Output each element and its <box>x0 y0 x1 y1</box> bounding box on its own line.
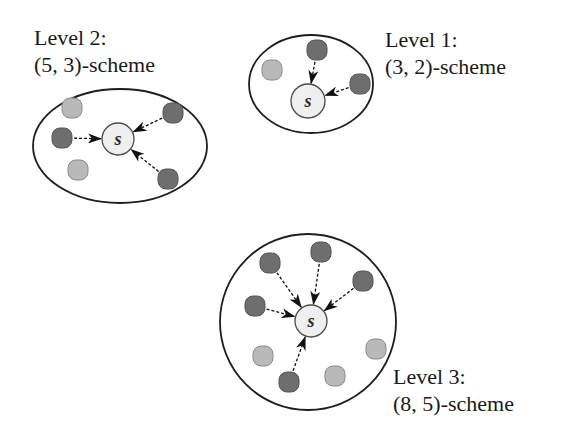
idle-participant-node <box>325 366 345 386</box>
idle-participant-node <box>62 98 82 118</box>
secret-label: s <box>113 129 121 149</box>
active-participant-node <box>353 271 373 291</box>
level-title: Level 1: <box>385 27 458 52</box>
secret-label: s <box>306 311 314 331</box>
active-participant-node <box>311 242 331 262</box>
group-level-1: sLevel 1:(3, 2)-scheme <box>249 27 506 133</box>
active-participant-node <box>260 253 280 273</box>
active-participant-node <box>245 296 265 316</box>
scheme-label: (8, 5)-scheme <box>393 391 514 416</box>
active-participant-node <box>279 372 299 392</box>
active-participant-node <box>350 74 370 94</box>
share-arrow <box>133 118 162 132</box>
idle-participant-node <box>68 160 88 180</box>
share-arrow <box>293 337 305 371</box>
idle-participant-node <box>366 339 386 359</box>
group-level-3: sLevel 3:(8, 5)-scheme <box>220 234 514 416</box>
scheme-label: (3, 2)-scheme <box>385 54 506 79</box>
active-participant-node <box>158 169 178 189</box>
share-arrow <box>267 309 295 316</box>
share-arrow <box>131 150 158 172</box>
level-title: Level 3: <box>393 364 466 389</box>
active-participant-node <box>163 103 183 123</box>
share-arrow <box>325 88 348 96</box>
share-arrow <box>311 62 315 83</box>
threshold-scheme-diagram: sLevel 2:(5, 3)-schemesLevel 1:(3, 2)-sc… <box>0 0 565 438</box>
level-title: Level 2: <box>34 25 107 50</box>
idle-participant-node <box>262 60 282 80</box>
share-arrow <box>324 288 353 310</box>
secret-label: s <box>303 91 311 111</box>
share-arrow <box>313 264 319 304</box>
active-participant-node <box>52 128 72 148</box>
group-level-2: sLevel 2:(5, 3)-scheme <box>33 25 207 203</box>
scheme-label: (5, 3)-scheme <box>34 52 155 77</box>
active-participant-node <box>307 40 327 60</box>
idle-participant-node <box>253 346 273 366</box>
share-arrow <box>277 273 301 307</box>
